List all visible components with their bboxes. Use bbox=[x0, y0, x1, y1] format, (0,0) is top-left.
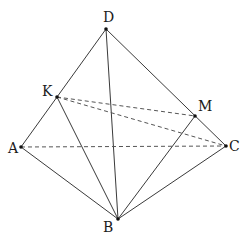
edge-bc bbox=[118, 146, 226, 219]
hidden-edge-ac bbox=[21, 146, 226, 147]
vertex-label-m: M bbox=[198, 98, 212, 114]
vertex-c bbox=[224, 144, 228, 148]
edge-mb bbox=[118, 116, 195, 219]
tetrahedron-diagram: DKMACB bbox=[0, 0, 244, 239]
edge-kb bbox=[57, 97, 118, 219]
vertex-b bbox=[116, 217, 120, 221]
vertex-label-b: B bbox=[103, 219, 113, 235]
vertex-d bbox=[104, 27, 108, 31]
vertex-k bbox=[55, 95, 59, 99]
diagram-svg: DKMACB bbox=[0, 0, 244, 239]
hidden-edge-km bbox=[57, 97, 195, 116]
vertex-m bbox=[193, 114, 197, 118]
vertex-label-c: C bbox=[229, 138, 240, 154]
vertex-labels: DKMACB bbox=[7, 9, 240, 235]
vertex-label-k: K bbox=[42, 83, 53, 99]
edge-ab bbox=[21, 147, 118, 219]
vertex-a bbox=[19, 145, 23, 149]
edge-db bbox=[106, 29, 118, 219]
vertices bbox=[19, 27, 228, 221]
vertex-label-d: D bbox=[103, 9, 114, 25]
vertex-label-a: A bbox=[7, 140, 19, 156]
edge-da bbox=[21, 29, 106, 147]
solid-edges bbox=[21, 29, 226, 219]
